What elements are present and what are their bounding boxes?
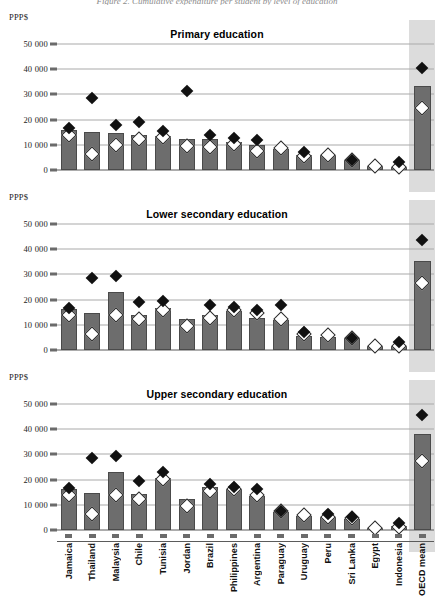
bar-oecd-mean	[414, 86, 431, 170]
black-diamond-malaysia	[110, 269, 123, 282]
x-label-thailand: Thailand	[87, 543, 97, 581]
y-tick-mark-20000	[50, 118, 57, 121]
x-tick-mark-oecd-mean	[419, 534, 426, 538]
y-tick-mark-50000	[50, 223, 57, 226]
x-tick-mark-egypt	[372, 534, 379, 538]
black-diamond-brazil	[204, 299, 217, 312]
bar-oecd-mean	[414, 434, 431, 530]
x-tick-mark-tunisia	[160, 534, 167, 538]
x-tick-mark-paraguay	[277, 534, 284, 538]
gridline-50000	[57, 224, 434, 225]
y-tick-mark-40000	[50, 248, 57, 251]
x-tick-mark-malaysia	[112, 534, 119, 538]
x-tick-mark-argentina	[254, 534, 261, 538]
y-tick-mark-0	[50, 349, 57, 352]
panel-title: Lower secondary education	[0, 208, 434, 220]
gridline-40000	[57, 249, 434, 250]
y-tick-label-holder: 50 000	[0, 12, 48, 192]
black-diamond-paraguay	[274, 298, 287, 311]
y-tick-mark-10000	[50, 143, 57, 146]
x-tick-mark-indonesia	[395, 534, 402, 538]
black-diamond-chile	[133, 474, 146, 487]
x-axis-line	[57, 541, 434, 542]
y-tick-mark-10000	[50, 323, 57, 326]
y-tick-mark-30000	[50, 453, 57, 456]
y-tick-mark-30000	[50, 273, 57, 276]
y-tick-mark-50000	[50, 403, 57, 406]
x-tick-mark-chile	[136, 534, 143, 538]
panel-title: Primary education	[0, 28, 434, 40]
bar-oecd-mean	[414, 261, 431, 350]
gridline-50000	[57, 404, 434, 405]
x-tick-mark-philippines	[230, 534, 237, 538]
y-tick-mark-50000	[50, 43, 57, 46]
y-tick-label-50000: 50 000	[23, 39, 48, 49]
panel-title: Upper secondary education	[0, 388, 434, 400]
x-label-uruguay: Uruguay	[299, 543, 309, 580]
x-label-jamaica: Jamaica	[64, 543, 74, 579]
y-tick-label-50000: 50 000	[23, 399, 48, 409]
x-tick-mark-uruguay	[301, 534, 308, 538]
black-diamond-jordan	[180, 85, 193, 98]
y-tick-mark-20000	[50, 298, 57, 301]
x-tick-mark-sri-lanka	[348, 534, 355, 538]
y-tick-mark-10000	[50, 503, 57, 506]
white-diamond-egypt	[367, 159, 383, 175]
gridline-40000	[57, 69, 434, 70]
bar-argentina	[249, 318, 265, 350]
x-label-egypt: Egypt	[370, 543, 380, 569]
chart-panel-3: PPP$010 00020 00030 00040 00050 000Upper…	[0, 372, 434, 552]
y-tick-mark-40000	[50, 68, 57, 71]
x-tick-mark-peru	[324, 534, 331, 538]
gridline-30000	[57, 94, 434, 95]
black-diamond-chile	[133, 296, 146, 309]
x-label-tunisia: Tunisia	[158, 543, 168, 575]
gridline-50000	[57, 44, 434, 45]
x-label-sri-lanka: Sri Lanka	[347, 543, 357, 584]
y-tick-mark-0	[50, 169, 57, 172]
x-label-oecd-mean: OECD mean	[417, 543, 427, 596]
y-tick-mark-40000	[50, 428, 57, 431]
y-tick-label-holder: 50 000	[0, 192, 48, 372]
y-tick-mark-20000	[50, 478, 57, 481]
x-tick-mark-jordan	[183, 534, 190, 538]
x-label-philippines: Philippines	[229, 543, 239, 592]
x-label-paraguay: Paraguay	[276, 543, 286, 584]
x-label-brazil: Brazil	[205, 543, 215, 568]
gridline-40000	[57, 429, 434, 430]
x-label-chile: Chile	[134, 543, 144, 566]
chart-panel-1: PPP$010 00020 00030 00040 00050 000Prima…	[0, 12, 434, 192]
x-axis-category-labels: JamaicaThailandMalaysiaChileTunisiaJorda…	[0, 543, 434, 603]
y-tick-mark-0	[50, 529, 57, 532]
white-diamond-egypt	[367, 338, 383, 354]
x-label-peru: Peru	[323, 543, 333, 563]
black-diamond-malaysia	[110, 450, 123, 463]
black-diamond-chile	[133, 116, 146, 129]
x-tick-mark-thailand	[89, 534, 96, 538]
black-diamond-malaysia	[110, 118, 123, 131]
cropped-figure-header: Figure 2. Cumulative expenditure per stu…	[0, 0, 434, 5]
chart-panel-2: PPP$010 00020 00030 00040 00050 000Lower…	[0, 192, 434, 372]
y-tick-mark-30000	[50, 93, 57, 96]
x-tick-mark-jamaica	[65, 534, 72, 538]
x-label-malaysia: Malaysia	[111, 543, 121, 581]
y-tick-label-holder: 50 000	[0, 372, 48, 552]
x-label-argentina: Argentina	[252, 543, 262, 586]
x-tick-mark-brazil	[207, 534, 214, 538]
x-label-jordan: Jordan	[182, 543, 192, 574]
x-label-indonesia: Indonesia	[394, 543, 404, 586]
y-tick-label-50000: 50 000	[23, 219, 48, 229]
